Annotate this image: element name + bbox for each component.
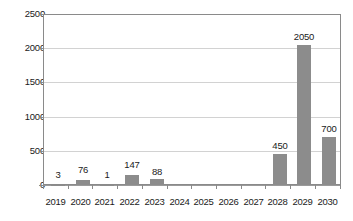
bar-2022[interactable] [125, 175, 139, 185]
x-axis-label-2019: 2019 [43, 196, 68, 207]
x-axis-tick-mark [117, 185, 118, 189]
bar-2028[interactable] [273, 154, 287, 185]
x-axis-label-2022: 2022 [117, 196, 142, 207]
x-axis-label-2021: 2021 [92, 196, 117, 207]
x-axis-label-2030: 2030 [315, 196, 340, 207]
x-axis-tick-mark [216, 185, 217, 189]
x-axis-tick-mark [167, 185, 168, 189]
bar-chart: 2500 2000 1500 1000 500 0 3 76 1 147 88 … [0, 0, 353, 221]
gridline-0 [44, 185, 340, 186]
bar-value-label-2030: 700 [314, 124, 344, 134]
x-axis-tick-mark [92, 185, 93, 189]
x-axis-label-2026: 2026 [216, 196, 241, 207]
x-axis-tick-mark [241, 185, 242, 189]
bar-2020[interactable] [76, 180, 90, 185]
x-axis-tick-mark [290, 185, 291, 189]
bar-value-label-2028: 450 [265, 141, 295, 151]
x-axis-label-2025: 2025 [191, 196, 216, 207]
x-axis-label-2028: 2028 [265, 196, 290, 207]
x-axis-tick-mark [191, 185, 192, 189]
gridline-1000 [44, 117, 340, 118]
bar-2029[interactable] [297, 45, 311, 185]
bar-2023[interactable] [150, 179, 164, 185]
gridline-2000 [44, 48, 340, 49]
gridline-500 [44, 151, 340, 152]
x-axis-label-2029: 2029 [290, 196, 315, 207]
x-axis-tick-mark [340, 185, 341, 189]
x-axis-tick-mark [265, 185, 266, 189]
x-axis-tick-mark [43, 185, 44, 189]
x-axis-label-2023: 2023 [142, 196, 167, 207]
bar-value-label-2021: 1 [92, 170, 122, 180]
gridline-1500 [44, 82, 340, 83]
x-axis-label-2024: 2024 [167, 196, 192, 207]
bar-value-label-2029: 2050 [289, 32, 319, 42]
x-axis-tick-mark [68, 185, 69, 189]
x-axis-label-2027: 2027 [241, 196, 266, 207]
x-axis-tick-mark [315, 185, 316, 189]
bar-value-label-2023: 88 [142, 167, 172, 177]
x-axis-label-2020: 2020 [68, 196, 93, 207]
bar-2030[interactable] [322, 137, 336, 185]
x-axis-tick-mark [142, 185, 143, 189]
